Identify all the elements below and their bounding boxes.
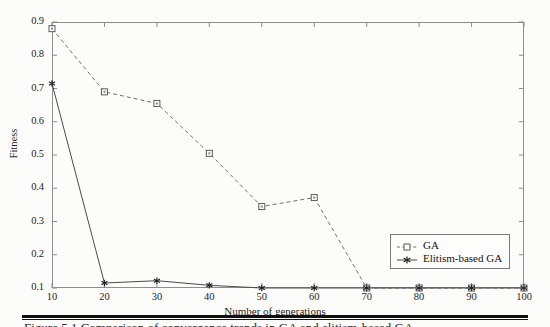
x-tick-label: 100 [504, 291, 544, 302]
caption-rule-thin [22, 319, 528, 320]
x-tick-label: 70 [347, 291, 387, 302]
y-tick-label: 0.5 [10, 148, 44, 159]
figure-container: Fitness 0.10.20.30.40.50.60.70.80.9 1020… [0, 0, 550, 327]
x-tick-label: 50 [242, 291, 282, 302]
legend-swatch-dashed-square-icon [396, 239, 418, 251]
x-tick-label: 40 [189, 291, 229, 302]
y-tick-label: 0.8 [10, 48, 44, 59]
chart-legend: GA Elitism-based GA [390, 234, 510, 269]
legend-item-ga: GA [396, 238, 502, 251]
y-tick-label: 0.2 [10, 248, 44, 259]
y-tick-label: 0.7 [10, 82, 44, 93]
legend-label-ga: GA [423, 239, 439, 251]
x-tick-label: 30 [137, 291, 177, 302]
y-tick-label: 0.6 [10, 115, 44, 126]
y-tick-label: 0.9 [10, 15, 44, 26]
x-tick-label: 60 [294, 291, 334, 302]
y-tick-label: 0.3 [10, 215, 44, 226]
x-tick-label: 20 [84, 291, 124, 302]
x-tick-label: 90 [452, 291, 492, 302]
x-tick-label: 80 [399, 291, 439, 302]
legend-label-elitism: Elitism-based GA [423, 252, 502, 264]
legend-swatch-solid-star-icon [396, 252, 418, 264]
y-tick-label: 0.4 [10, 181, 44, 192]
caption-rule-thick [22, 315, 528, 318]
figure-caption: Figure 5.1 Comparison of convergence tre… [24, 321, 534, 327]
legend-item-elitism: Elitism-based GA [396, 251, 502, 264]
x-tick-label: 10 [32, 291, 72, 302]
